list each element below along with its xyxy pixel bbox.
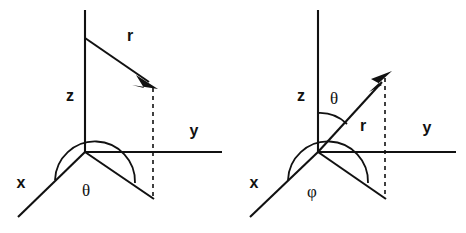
- right-x-axis-label: x: [250, 174, 259, 191]
- left-r-vector-line: [85, 38, 149, 82]
- left-y-axis-label: y: [190, 122, 199, 139]
- left-r-vector-label: r: [127, 27, 133, 44]
- right-coordinate-diagram: z y x r θ φ: [250, 10, 456, 217]
- right-theta-angle-arc: [318, 113, 347, 124]
- left-coordinate-diagram: z y x r θ: [17, 10, 222, 217]
- figure-canvas: z y x r θ z: [0, 0, 466, 233]
- left-x-axis-line: [18, 152, 85, 217]
- right-ground-projection-line: [318, 152, 386, 199]
- left-ground-projection-line: [85, 152, 154, 199]
- right-r-vector-arrowhead: [369, 71, 392, 92]
- right-phi-angle-arc: [288, 141, 368, 183]
- left-z-axis-label: z: [66, 87, 74, 104]
- right-y-axis-label: y: [423, 119, 432, 136]
- right-z-axis-label: z: [297, 87, 305, 104]
- right-theta-angle-label: θ: [330, 89, 338, 108]
- right-phi-angle-label: φ: [307, 182, 317, 201]
- coordinate-systems-figure: z y x r θ z: [0, 0, 466, 233]
- left-r-vector-arrowhead: [132, 75, 158, 89]
- right-r-vector-label: r: [360, 117, 366, 134]
- left-theta-angle-label: θ: [82, 181, 90, 200]
- left-x-axis-label: x: [17, 174, 26, 191]
